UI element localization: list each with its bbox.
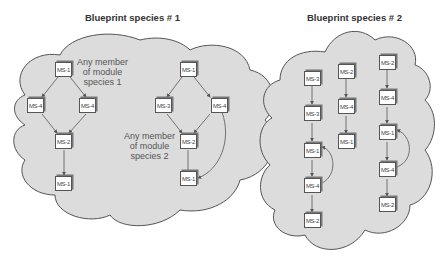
cloud-blueprint-1 <box>14 34 274 226</box>
module-box: MS-3 <box>304 71 321 86</box>
annotation-line: species 1 <box>77 77 128 87</box>
annotation-species-1: Any member of module species 1 <box>77 57 128 87</box>
module-box: MS-1 <box>379 125 396 140</box>
module-box: MS-1 <box>180 171 197 186</box>
module-box: MS-3 <box>155 98 172 113</box>
annotation-line: species 2 <box>124 151 175 161</box>
module-box: MS-2 <box>180 134 197 149</box>
module-box: MS-2 <box>55 134 72 149</box>
annotation-line: Any member <box>124 131 175 141</box>
module-box: MS-4 <box>211 98 228 113</box>
annotation-species-2: Any member of module species 2 <box>124 131 175 161</box>
module-box: MS-4 <box>338 99 355 114</box>
module-box: MS-4 <box>379 162 396 177</box>
module-box: MS-1 <box>338 134 355 149</box>
module-box: MS-2 <box>379 55 396 70</box>
module-box: MS-4 <box>304 178 321 193</box>
diagram-canvas <box>0 0 443 261</box>
module-box: MS-1 <box>55 176 72 191</box>
title-blueprint-2: Blueprint species # 2 <box>307 12 402 23</box>
module-box: MS-4 <box>27 98 44 113</box>
module-box: MS-2 <box>338 64 355 79</box>
module-box: MS-2 <box>379 197 396 212</box>
module-box: MS-1 <box>55 62 72 77</box>
module-box: MS-2 <box>304 213 321 228</box>
module-box: MS-3 <box>304 106 321 121</box>
module-box: MS-1 <box>180 62 197 77</box>
annotation-line: of module <box>77 67 128 77</box>
module-box: MS-4 <box>79 98 96 113</box>
module-box: MS-4 <box>379 90 396 105</box>
module-box: MS-1 <box>304 143 321 158</box>
annotation-line: Any member <box>77 57 128 67</box>
annotation-line: of module <box>124 141 175 151</box>
title-blueprint-1: Blueprint species # 1 <box>85 12 180 23</box>
